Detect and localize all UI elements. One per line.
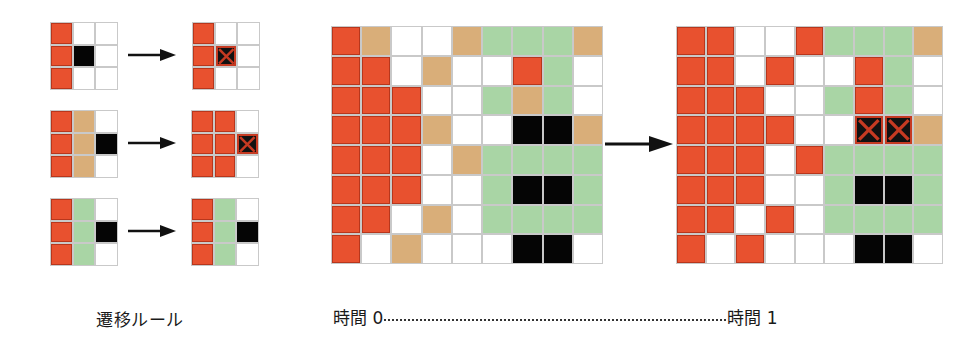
green-cell [825, 176, 853, 204]
red-cell [707, 57, 735, 85]
time-end-label: 時間 1 [727, 304, 777, 329]
red-cell [192, 222, 213, 243]
red-cell [677, 146, 705, 174]
green-cell [483, 87, 511, 115]
green-cell [483, 206, 511, 234]
white-cell [796, 176, 824, 204]
black-cell [855, 176, 883, 204]
white-cell [825, 57, 853, 85]
time-start-label: 時間 0 [333, 304, 383, 329]
red-cell [766, 57, 794, 85]
timeline-caption: 時間 0 時間 1 [333, 304, 777, 329]
green-cell [914, 146, 942, 174]
red-cell [677, 87, 705, 115]
time-arrow-icon [605, 135, 673, 153]
red-cell [332, 206, 360, 234]
rule-1-before-grid [50, 22, 118, 90]
white-cell [423, 235, 451, 263]
cross-icon [237, 134, 258, 155]
red-cell [332, 235, 360, 263]
red-cell [707, 116, 735, 144]
black-cell [237, 222, 258, 243]
red-cell [51, 199, 72, 220]
black-cell [74, 46, 95, 67]
white-cell [423, 176, 451, 204]
black-cell [885, 176, 913, 204]
black-cell [513, 235, 541, 263]
green-cell [215, 244, 236, 265]
white-cell [362, 235, 390, 263]
green-cell [544, 87, 572, 115]
green-cell [855, 27, 883, 55]
green-cell [914, 206, 942, 234]
white-cell [96, 23, 117, 44]
white-cell [453, 235, 481, 263]
red-cell [51, 156, 72, 177]
red-cell [215, 134, 236, 155]
red-cell [332, 87, 360, 115]
red-cell [192, 156, 213, 177]
green-cell [483, 146, 511, 174]
red-cell [362, 116, 390, 144]
white-cell [736, 57, 764, 85]
red-cell [855, 87, 883, 115]
white-cell [96, 46, 117, 67]
red-cell [392, 176, 420, 204]
red-cell [215, 156, 236, 177]
white-cell [392, 57, 420, 85]
red-cell [707, 27, 735, 55]
red-cell [51, 134, 72, 155]
rule-3-after-grid [191, 198, 259, 266]
white-cell [707, 235, 735, 263]
tan-cell [453, 146, 481, 174]
white-cell [237, 244, 258, 265]
red-cell [513, 57, 541, 85]
tan-cell [74, 156, 95, 177]
tan-cell [423, 57, 451, 85]
white-cell [483, 235, 511, 263]
red-cell [677, 235, 705, 263]
red-cell [193, 46, 214, 67]
green-cell [513, 146, 541, 174]
white-cell [796, 206, 824, 234]
white-cell [736, 27, 764, 55]
tan-cell [574, 116, 602, 144]
white-cell [766, 146, 794, 174]
crossed-black-cell [855, 116, 883, 144]
black-cell [855, 235, 883, 263]
white-cell [238, 23, 259, 44]
red-cell [707, 87, 735, 115]
green-cell [825, 87, 853, 115]
red-cell [51, 68, 72, 89]
rule-2-before-grid [50, 110, 118, 178]
white-cell [574, 57, 602, 85]
green-cell [483, 27, 511, 55]
green-cell [825, 146, 853, 174]
green-cell [544, 27, 572, 55]
white-cell [914, 57, 942, 85]
rule-3-arrow-icon [128, 224, 176, 238]
red-cell [332, 116, 360, 144]
red-cell [332, 146, 360, 174]
green-cell [855, 206, 883, 234]
white-cell [216, 68, 237, 89]
tan-cell [914, 27, 942, 55]
red-cell [677, 176, 705, 204]
green-cell [914, 176, 942, 204]
white-cell [74, 68, 95, 89]
red-cell [362, 206, 390, 234]
time-1-grid [676, 26, 943, 264]
white-cell [483, 57, 511, 85]
red-cell [332, 176, 360, 204]
red-cell [51, 46, 72, 67]
red-cell [736, 235, 764, 263]
white-cell [766, 235, 794, 263]
green-cell [885, 87, 913, 115]
green-cell [513, 206, 541, 234]
red-cell [192, 111, 213, 132]
white-cell [74, 23, 95, 44]
cross-icon [216, 46, 237, 67]
green-cell [513, 27, 541, 55]
white-cell [736, 206, 764, 234]
white-cell [96, 199, 117, 220]
